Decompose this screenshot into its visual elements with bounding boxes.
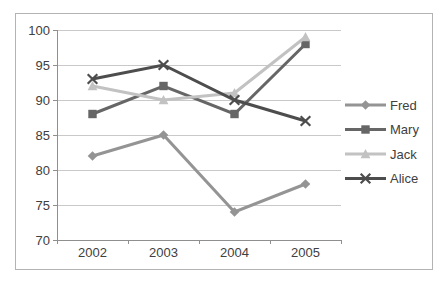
mary-marker-square — [88, 110, 96, 118]
y-tick-label: 95 — [36, 58, 50, 73]
x-tick-label: 2002 — [78, 245, 107, 260]
legend-label-alice: Alice — [390, 171, 418, 186]
chart-frame — [16, 14, 433, 270]
line-chart: 7075808590951002002200320042005FredMaryJ… — [0, 0, 448, 284]
y-tick-label: 80 — [36, 163, 50, 178]
legend-label-mary: Mary — [390, 122, 419, 137]
x-tick-label: 2005 — [291, 245, 320, 260]
x-tick-label: 2004 — [220, 245, 249, 260]
x-tick-label: 2003 — [149, 245, 178, 260]
y-tick-label: 100 — [28, 23, 50, 38]
mary-legend-marker-square — [361, 125, 369, 133]
y-tick-label: 85 — [36, 128, 50, 143]
mary-marker-square — [159, 82, 167, 90]
y-tick-label: 75 — [36, 198, 50, 213]
embedded-line-chart[interactable]: 7075808590951002002200320042005FredMaryJ… — [0, 0, 448, 284]
mary-marker-square — [230, 110, 238, 118]
legend-label-jack: Jack — [390, 147, 417, 162]
y-tick-label: 90 — [36, 93, 50, 108]
legend-label-fred: Fred — [390, 98, 417, 113]
y-tick-label: 70 — [36, 233, 50, 248]
